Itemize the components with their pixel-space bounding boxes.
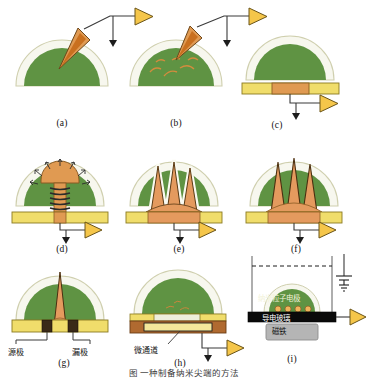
panel-b: (b)	[120, 2, 232, 132]
panel-f: (f)	[240, 136, 364, 258]
electrode-wire	[202, 333, 228, 348]
electrode-wire	[174, 223, 200, 230]
ground-arrow-icon	[292, 113, 300, 120]
panel-g-graphic	[6, 258, 122, 344]
amplifier-icon	[319, 222, 336, 238]
amplifier-icon	[199, 222, 216, 238]
amplifier-icon	[85, 222, 102, 238]
ground-arrow-icon	[296, 237, 304, 244]
panel-i-label: (i)	[228, 354, 356, 364]
electrode-wire	[294, 223, 320, 230]
electrode-wire	[290, 94, 322, 103]
substrate-bar	[242, 83, 339, 94]
panel-b-graphic	[120, 2, 232, 114]
figure-caption: 图 一种制备纳米尖端的方法	[0, 366, 368, 378]
panel-c-graphic	[234, 2, 364, 120]
panel-e: (e)	[120, 136, 238, 258]
panel-g: 源极 漏极 (g)	[6, 258, 122, 368]
source-electrode-label: 源极	[8, 346, 24, 357]
source-leader	[16, 332, 47, 344]
ground-arrow-icon	[62, 237, 70, 244]
stem-through-substrate	[54, 212, 66, 223]
ground-arrow-icon	[176, 237, 184, 244]
magnet-label: 磁铁	[272, 325, 286, 336]
top-gap	[154, 314, 200, 321]
ground-arrow-icon	[109, 40, 117, 47]
center-electrode	[268, 212, 320, 223]
amplifier-icon	[320, 95, 338, 112]
microchannel-label: 微通道	[134, 344, 158, 355]
panel-h: 微通道 (h)	[124, 258, 244, 368]
panel-a-label: (a)	[6, 118, 118, 128]
drain-contact	[68, 320, 78, 332]
panel-a: (a)	[6, 2, 118, 132]
amplifier-icon	[350, 309, 366, 325]
panel-e-graphic	[120, 136, 238, 244]
electrode-wire	[60, 223, 86, 230]
center-electrode	[272, 83, 309, 94]
drain-electrode-label: 漏极	[72, 346, 88, 357]
source-contact	[42, 320, 52, 332]
panel-d-label: (d)	[6, 244, 118, 254]
panel-d: (d)	[6, 136, 118, 258]
substrate-bar	[12, 320, 108, 332]
panel-d-graphic	[6, 136, 122, 244]
drain-leader	[73, 332, 90, 344]
center-electrode	[148, 212, 200, 223]
nanoparticle-electrode-label: 纳米粒子电极	[258, 292, 300, 303]
panel-c: (c)	[234, 2, 364, 132]
panel-e-label: (e)	[120, 244, 238, 254]
capacitor-ground-icon	[336, 276, 352, 291]
panel-i: 纳米粒子电极 导电玻璃 磁铁 (i)	[240, 254, 368, 368]
panel-c-label: (c)	[212, 120, 342, 130]
panel-f-graphic	[240, 136, 358, 244]
panel-a-graphic	[6, 2, 118, 114]
process-flow-figure: (a) (b)	[0, 0, 368, 379]
ground-arrow-icon	[223, 40, 231, 47]
panel-i-graphic	[240, 254, 368, 358]
conductive-glass-label: 导电玻璃	[262, 312, 290, 323]
panel-f-label: (f)	[234, 244, 358, 254]
microchannel-cavity	[144, 323, 212, 331]
